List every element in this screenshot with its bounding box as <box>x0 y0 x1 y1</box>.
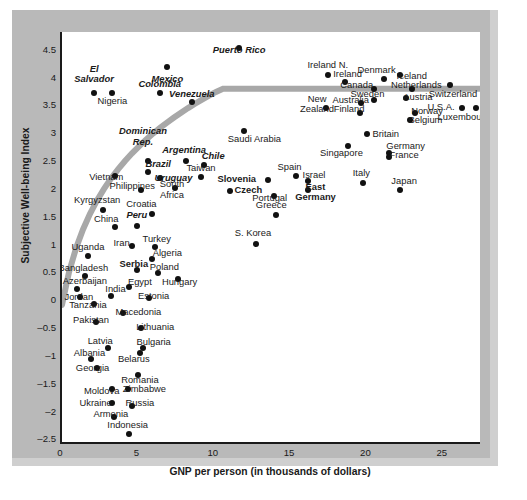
data-point-label: Estonia <box>138 291 169 302</box>
y-tick-label: 4 <box>51 71 56 82</box>
data-point-label: Iran <box>113 238 129 249</box>
data-point <box>397 187 403 193</box>
data-point-label: Georgia <box>76 363 109 374</box>
data-point-label: New Zealand <box>300 94 334 115</box>
y-tick-label: –2.5 <box>37 433 56 444</box>
x-tick-label: 0 <box>57 447 62 458</box>
data-point <box>145 169 151 175</box>
data-point-label: Zimbabwe <box>123 384 166 395</box>
data-point-label: Brazil <box>145 159 171 170</box>
data-point-label: Tanzania <box>69 300 107 311</box>
data-point-label: Belgium <box>409 115 443 126</box>
data-point <box>134 223 140 229</box>
data-point <box>253 241 259 247</box>
data-point <box>273 212 279 218</box>
plot-area: Puerto RicoMexicoEl SalvadorNigeriaColom… <box>60 32 480 444</box>
data-point-label: Luxembourg <box>438 112 480 123</box>
y-tick-label: 2.5 <box>43 155 56 166</box>
data-point-label: Belarus <box>118 354 150 365</box>
data-point-label: Denmark <box>358 65 396 76</box>
x-tick-label: 5 <box>134 447 139 458</box>
data-point-label: Croatia <box>126 199 156 210</box>
data-point-label: Japan <box>391 176 417 187</box>
x-axis-title: GNP per person (in thousands of dollars) <box>60 466 480 477</box>
data-point <box>149 211 155 217</box>
data-point-label: Greece <box>256 200 287 211</box>
data-point-label: Pakistan <box>73 315 109 326</box>
data-point-label: Uganda <box>72 242 105 253</box>
y-tick-label: –0.5 <box>37 322 56 333</box>
data-point-label: Ukraine <box>79 398 111 409</box>
data-point-label: Chile <box>202 151 225 162</box>
data-point-label: Peru <box>126 210 147 221</box>
figure-root: 4.543.532.521.510.50–0.5–1–1.5–2–2.5 051… <box>0 0 527 500</box>
data-point-label: Israel <box>303 170 326 181</box>
data-point <box>164 64 170 70</box>
data-point-label: Saudi Arabia <box>228 134 281 145</box>
data-point-label: France <box>390 150 419 161</box>
data-point-label: Lithuania <box>136 322 174 333</box>
y-tick-label: 2 <box>51 182 56 193</box>
data-point <box>293 173 299 179</box>
data-point-label: Britain <box>372 129 399 140</box>
y-tick-label: 4.5 <box>43 43 56 54</box>
data-point-label: China <box>94 214 119 225</box>
y-tick-label: 3.5 <box>43 99 56 110</box>
data-point <box>85 253 91 259</box>
data-point-label: El Salvador <box>74 64 114 85</box>
y-tick-label: 0.5 <box>43 266 56 277</box>
data-point-label: Singapore <box>320 148 363 159</box>
data-point <box>189 99 195 105</box>
data-point-label: S. Korea <box>235 228 271 239</box>
data-point-label: Latvia <box>88 336 113 347</box>
data-point-label: Nigeria <box>98 96 128 107</box>
data-point <box>473 105 479 111</box>
y-tick-label: 1 <box>51 238 56 249</box>
data-point-label: Kyrgyzstan <box>74 195 120 206</box>
x-tick-label: 10 <box>207 447 218 458</box>
data-point-label: Algeria <box>153 248 182 259</box>
data-point-label: Argentina <box>162 145 206 156</box>
data-point-label: East Germany <box>295 182 336 203</box>
x-tick-label: 15 <box>284 447 295 458</box>
y-tick-label: –2 <box>45 405 56 416</box>
data-point-label: Philippines <box>110 181 155 192</box>
data-point <box>198 174 204 180</box>
data-point-label: Macedonia <box>115 307 161 318</box>
data-point-label: Serbia <box>119 259 148 270</box>
y-axis-title: Subjective Well-being Index <box>20 86 31 306</box>
data-point-label: Egypt <box>128 277 152 288</box>
data-point-label: Venezuela <box>169 89 215 100</box>
data-point <box>459 105 465 111</box>
data-point <box>157 90 163 96</box>
x-tick-label: 20 <box>360 447 371 458</box>
data-point-label: Hungary <box>162 277 197 288</box>
plot-inner: Puerto RicoMexicoEl SalvadorNigeriaColom… <box>62 32 480 442</box>
data-point-label: Slovenia <box>217 174 256 185</box>
data-point-label: Puerto Rico <box>213 45 266 56</box>
data-point-label: Russia <box>126 398 155 409</box>
y-tick-label: 0 <box>51 294 56 305</box>
x-axis-ticks: 0510152025 <box>60 447 480 461</box>
y-tick-label: –1.5 <box>37 377 56 388</box>
data-point-label: Dominican Rep. <box>119 126 167 147</box>
data-point-label: Azerbaijan <box>63 276 107 287</box>
data-point-label: Bangladesh <box>60 263 108 274</box>
data-point-label: Spain <box>278 162 302 173</box>
data-point-label: Albania <box>74 348 105 359</box>
y-tick-label: 1.5 <box>43 210 56 221</box>
data-point-label: Poland <box>150 262 179 273</box>
y-tick-label: –1 <box>45 349 56 360</box>
data-point <box>227 188 233 194</box>
y-tick-label: 3 <box>51 127 56 138</box>
data-point-label: Finland <box>334 104 365 115</box>
data-point-label: Moldova <box>84 386 119 397</box>
data-point-label: Indonesia <box>107 420 148 431</box>
data-point-label: Armenia <box>93 409 128 420</box>
data-point-label: Bulgaria <box>136 337 170 348</box>
data-point-label: Turkey <box>143 234 171 245</box>
x-tick-label: 25 <box>436 447 447 458</box>
data-point-label: Italy <box>353 168 370 179</box>
data-point-label: South Africa <box>160 179 185 200</box>
data-point-label: India <box>105 284 125 295</box>
